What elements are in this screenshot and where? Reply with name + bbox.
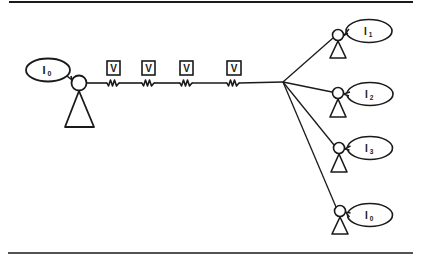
- speech-bubble-tail: [344, 92, 351, 96]
- person-head-circle: [334, 143, 345, 154]
- person-body-triangle: [330, 41, 346, 58]
- bubble-label: I: [365, 143, 368, 154]
- bubble-subscript: 1: [369, 31, 373, 38]
- source-person: I0: [26, 59, 94, 128]
- voltage-label: V: [145, 63, 152, 74]
- voltage-box: V: [180, 61, 193, 75]
- resistor-icon: [107, 80, 119, 86]
- bubble-subscript: 0: [370, 215, 374, 222]
- person-head-circle: [72, 76, 87, 91]
- person-body-triangle: [330, 99, 346, 117]
- speech-bubble-tail: [67, 76, 72, 80]
- person-body-triangle: [331, 154, 347, 172]
- bubble-label: I: [365, 210, 368, 221]
- person-body-triangle: [65, 91, 94, 127]
- voltage-label: V: [183, 63, 190, 74]
- receiver-person-1: I1: [283, 20, 392, 83]
- voltage-label: V: [110, 63, 117, 74]
- bubble-subscript: 3: [370, 148, 374, 155]
- bubble-subscript: 2: [370, 94, 374, 101]
- person-head-circle: [335, 206, 346, 217]
- wire-segment: [239, 82, 283, 83]
- bubble-subscript: 0: [48, 70, 52, 77]
- bubble-label: I: [42, 64, 45, 76]
- network-diagram: VVVVI0I1I2I3I0: [0, 0, 425, 259]
- fanout-line: [283, 82, 336, 207]
- resistor-icon: [180, 80, 192, 86]
- person-head-circle: [333, 88, 344, 99]
- person-head-circle: [333, 30, 344, 41]
- transmission-line: VVVV: [86, 61, 283, 86]
- voltage-box: V: [142, 61, 155, 75]
- resistor-icon: [142, 80, 154, 86]
- voltage-box: V: [227, 61, 241, 75]
- fanout-line: [283, 38, 333, 82]
- voltage-box: V: [107, 61, 120, 75]
- voltage-label: V: [231, 63, 238, 74]
- resistor-icon: [227, 80, 239, 86]
- person-body-triangle: [332, 217, 348, 234]
- bubble-label: I: [365, 89, 368, 100]
- receiver-person-2: I2: [283, 82, 393, 117]
- bubble-label: I: [364, 26, 367, 37]
